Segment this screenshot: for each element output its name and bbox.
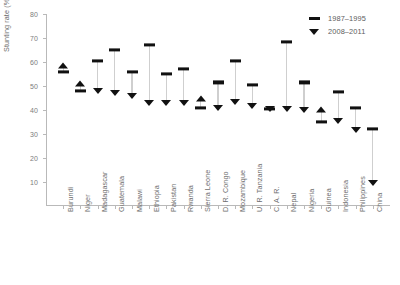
marker-2008-2011 [299, 107, 309, 113]
x-axis-tick [166, 206, 167, 209]
marker-1987-1995 [333, 90, 344, 93]
y-axis-tick-label: 20 [8, 155, 38, 162]
connector-line [235, 61, 236, 102]
y-axis-title: Stunting rate (%) [2, 0, 11, 52]
x-axis-tick-label: Rwanda [186, 185, 195, 212]
dash-marker-icon [304, 17, 324, 20]
x-axis-tick-label: Philippines [358, 176, 367, 212]
x-axis-tick-label: China [375, 193, 384, 212]
x-axis-tick-label: Malawi [135, 189, 144, 212]
connector-line [114, 50, 115, 93]
marker-2008-2011 [247, 103, 257, 109]
y-axis-tick [43, 14, 46, 15]
marker-2008-2011 [127, 93, 137, 99]
marker-2008-2011 [93, 88, 103, 94]
marker-2008-2011 [265, 106, 275, 112]
connector-line [286, 42, 287, 109]
marker-1987-1995 [281, 40, 292, 43]
legend-label: 1987–1995 [328, 14, 366, 23]
x-axis-tick-label: Mozambique [238, 170, 247, 212]
marker-1987-1995 [92, 59, 103, 62]
marker-1987-1995 [316, 120, 327, 123]
y-axis-tick [43, 134, 46, 135]
connector-line [372, 129, 373, 183]
legend-label: 2008–2011 [328, 27, 365, 36]
y-axis-tick-label: 10 [8, 179, 38, 186]
x-axis-tick [132, 206, 133, 209]
x-axis-tick [321, 206, 322, 209]
chart-legend: 1987–1995 2008–2011 [304, 12, 366, 38]
marker-2008-2011 [213, 105, 223, 111]
marker-2008-2011 [282, 106, 292, 112]
x-axis-tick-label: Indonesia [341, 180, 350, 212]
x-axis-tick [287, 206, 288, 209]
legend-item-2008-2011: 2008–2011 [304, 25, 366, 38]
marker-1987-1995 [161, 72, 172, 75]
y-axis-tick [43, 86, 46, 87]
x-axis-tick [98, 206, 99, 209]
y-axis-tick [43, 110, 46, 111]
marker-2008-2011 [58, 62, 68, 68]
marker-2008-2011 [144, 100, 154, 106]
x-axis-tick [235, 206, 236, 209]
marker-1987-1995 [213, 81, 224, 84]
connector-line [97, 61, 98, 91]
x-axis-tick-label: Guinea [324, 188, 333, 212]
x-axis-tick-label: Nigeria [307, 189, 316, 212]
marker-1987-1995 [144, 44, 155, 47]
x-axis-tick-label: Burundi [66, 187, 75, 212]
x-axis-tick [201, 206, 202, 209]
x-axis-tick [218, 206, 219, 209]
marker-1987-1995 [247, 83, 258, 86]
x-axis-tick [80, 206, 81, 209]
x-axis-tick-label: Madagascar [100, 171, 109, 212]
connector-line [303, 82, 304, 110]
triangle-down-marker-icon [304, 29, 324, 35]
connector-line [183, 69, 184, 103]
connector-line [166, 74, 167, 103]
x-axis-tick [373, 206, 374, 209]
marker-2008-2011 [75, 80, 85, 86]
marker-1987-1995 [299, 81, 310, 84]
x-axis-tick-label: D. R. Congo [221, 171, 230, 212]
marker-1987-1995 [367, 128, 378, 131]
marker-2008-2011 [316, 107, 326, 113]
x-axis-tick [184, 206, 185, 209]
marker-1987-1995 [350, 106, 361, 109]
x-axis-tick-label: Pakistan [169, 184, 178, 212]
x-axis-tick-label: Nepal [289, 193, 298, 212]
marker-1987-1995 [75, 89, 86, 92]
connector-line [338, 92, 339, 121]
x-axis-tick [149, 206, 150, 209]
plot-area: 1020304050607080 [46, 14, 390, 206]
x-axis-tick [356, 206, 357, 209]
marker-2008-2011 [230, 99, 240, 105]
marker-2008-2011 [161, 100, 171, 106]
y-axis-tick-label: 70 [8, 35, 38, 42]
y-axis-tick [43, 158, 46, 159]
x-axis-tick-label: Sierra Leone [203, 170, 212, 212]
marker-2008-2011 [110, 90, 120, 96]
x-axis-tick [63, 206, 64, 209]
marker-2008-2011 [333, 118, 343, 124]
x-axis-tick-label: Niger [83, 194, 92, 212]
x-axis-tick-label: U. R. Tanzania [255, 164, 264, 212]
x-axis-tick [338, 206, 339, 209]
x-axis-tick [304, 206, 305, 209]
x-axis-tick [115, 206, 116, 209]
legend-item-1987-1995: 1987–1995 [304, 12, 366, 25]
x-axis-tick [270, 206, 271, 209]
marker-2008-2011 [368, 180, 378, 186]
y-axis-tick [43, 182, 46, 183]
x-axis-tick-label: Guatemala [117, 176, 126, 212]
marker-1987-1995 [230, 59, 241, 62]
x-axis-tick [252, 206, 253, 209]
connector-line [149, 45, 150, 103]
y-axis-tick-label: 40 [8, 107, 38, 114]
x-axis-tick-label: Ethiopia [152, 185, 161, 212]
y-axis-line [46, 14, 47, 206]
marker-1987-1995 [58, 70, 69, 73]
y-axis-tick-label: 60 [8, 59, 38, 66]
marker-1987-1995 [195, 106, 206, 109]
marker-1987-1995 [109, 48, 120, 51]
